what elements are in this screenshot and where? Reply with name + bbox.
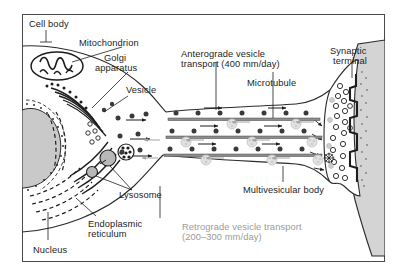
microtubule bbox=[164, 154, 322, 157]
label-synaptic-line2: terminal bbox=[333, 56, 367, 67]
label-vesicle: Vesicle bbox=[126, 85, 156, 96]
mitochondrion bbox=[31, 52, 83, 80]
label-anterograde-line1: Anterograde vesicle bbox=[181, 49, 265, 60]
label-synaptic-line1: Synaptic bbox=[330, 46, 366, 57]
label-mitochondrion: Mitochondrion bbox=[79, 38, 139, 49]
label-cell-body: Cell body bbox=[29, 19, 69, 30]
terminal-endosome bbox=[324, 153, 335, 164]
label-golgi-line2: apparatus bbox=[95, 63, 137, 74]
label-multivesicular-body: Multivesicular body bbox=[243, 185, 324, 196]
figure-canvas: Cell body Mitochondrion Golgi apparatus … bbox=[0, 0, 406, 276]
label-anterograde-line2: transport (400 mm/day) bbox=[181, 59, 280, 70]
label-endoplasmic-line1: Endoplasmic bbox=[88, 219, 142, 230]
label-golgi-line1: Golgi bbox=[104, 53, 126, 64]
label-microtubule: Microtubule bbox=[247, 78, 296, 89]
label-nucleus: Nucleus bbox=[33, 245, 67, 256]
label-retrograde-line2: (200–300 mm/day) bbox=[182, 232, 262, 243]
label-retrograde-line1: Retrograde vesicle transport bbox=[182, 222, 302, 233]
label-endoplasmic-line2: reticulum bbox=[88, 229, 127, 240]
label-lysosome: Lysosome bbox=[119, 190, 162, 201]
